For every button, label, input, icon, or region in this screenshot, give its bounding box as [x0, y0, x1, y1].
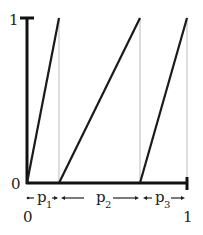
segment-p3-sub: 3 [164, 199, 170, 210]
tooth-3 [140, 18, 187, 183]
sawtooth-diagram: 1 0 0 1 p 1 p 2 p 3 [0, 0, 203, 235]
x-left-label: 0 [23, 208, 33, 226]
tooth-1 [27, 18, 59, 183]
segment-p3-dimension: p 3 [143, 188, 185, 210]
x-right-label: 1 [183, 208, 193, 226]
segment-p2-dimension: p 2 [61, 188, 139, 210]
y-bottom-label: 0 [11, 175, 21, 193]
y-top-label: 1 [9, 11, 19, 29]
tooth-2 [59, 18, 140, 183]
segment-p1-dimension: p 1 [27, 188, 58, 210]
segment-p2-sub: 2 [105, 199, 111, 210]
segment-p1-sub: 1 [46, 199, 52, 210]
